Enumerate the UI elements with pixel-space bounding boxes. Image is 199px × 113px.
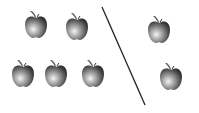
apple-icon <box>82 60 104 87</box>
apple-icon <box>66 13 88 40</box>
apples-diagram <box>0 0 199 113</box>
left-apple-group <box>12 11 104 87</box>
apple-icon <box>12 60 34 87</box>
right-apple-group <box>148 16 182 90</box>
apple-icon <box>160 63 182 90</box>
apple-icon <box>45 60 67 87</box>
apple-icon <box>25 11 47 38</box>
divider-line <box>102 7 145 105</box>
apple-icon <box>148 16 170 43</box>
